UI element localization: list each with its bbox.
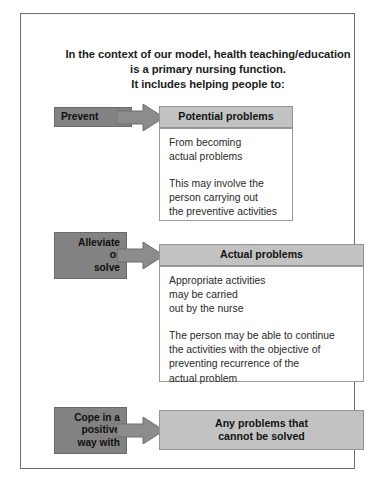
action-label-cope-line-2: positive (61, 424, 120, 437)
page-title: In the context of our model, health teac… (47, 47, 369, 93)
body-line: out by the nurse (169, 302, 363, 316)
body-line: the activities with the objective of (169, 343, 363, 357)
body-line: The person may be able to continue (169, 329, 363, 343)
problem-body-potential: From becoming actual problems This may i… (159, 128, 293, 221)
page-title-line-2: is a primary nursing function. (47, 62, 369, 77)
right-block-arrow-icon-3 (117, 417, 165, 444)
problem-header-unsolvable-line-2: cannot be solved (215, 430, 308, 443)
body-line: may be carried (169, 288, 363, 302)
problem-body-potential-paragraph-1: From becoming actual problems (169, 136, 292, 164)
problem-body-actual-paragraph-2: The person may be able to continue the a… (169, 329, 363, 385)
right-block-arrow-icon-2 (117, 242, 165, 269)
body-line: actual problem (169, 372, 363, 386)
action-label-cope-line-3: way with (61, 437, 120, 450)
action-label-alleviate-line-2: or (61, 249, 120, 262)
action-label-alleviate-line-3: solve (61, 262, 120, 275)
body-line: the preventive activities (169, 205, 292, 219)
problem-header-unsolvable: Any problems that cannot be solved (159, 410, 364, 450)
body-line: This may involve the (169, 177, 292, 191)
page-title-line-1: In the context of our model, health teac… (47, 47, 369, 62)
body-line: actual problems (169, 150, 292, 164)
problem-header-unsolvable-text: Any problems that cannot be solved (215, 417, 308, 444)
body-line: From becoming (169, 136, 292, 150)
right-block-arrow-icon-1 (117, 104, 165, 131)
action-label-cope-line-1: Cope in a (61, 412, 120, 425)
problem-body-actual-paragraph-1: Appropriate activities may be carried ou… (169, 274, 363, 316)
problem-header-unsolvable-line-1: Any problems that (215, 417, 308, 430)
body-line: person carrying out (169, 191, 292, 205)
problem-header-potential-line-1: Potential problems (178, 110, 273, 123)
body-line: preventing recurrence of the (169, 357, 363, 371)
diagram-frame: In the context of our model, health teac… (20, 13, 355, 469)
problem-body-potential-paragraph-2: This may involve the person carrying out… (169, 177, 292, 219)
action-label-prevent-line-1: Prevent (61, 111, 125, 124)
problem-body-actual: Appropriate activities may be carried ou… (159, 266, 364, 382)
page-title-line-3: It includes helping people to: (47, 77, 369, 92)
problem-header-actual-line-1: Actual problems (220, 248, 303, 261)
action-label-alleviate-line-1: Alleviate (61, 237, 120, 250)
diagram-page: In the context of our model, health teac… (0, 0, 373, 486)
body-line: Appropriate activities (169, 274, 363, 288)
problem-header-actual: Actual problems (159, 244, 364, 266)
problem-header-potential: Potential problems (159, 106, 293, 128)
